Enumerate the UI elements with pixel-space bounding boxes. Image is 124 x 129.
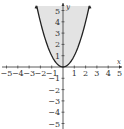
y-tick-label: 4 [55, 18, 60, 27]
y-tick-label: −3 [48, 97, 60, 106]
y-tick-label: 2 [55, 40, 60, 49]
x-tick-label: 3 [94, 69, 99, 78]
x-tick-label: −4 [12, 69, 24, 78]
chart-plot: −5−4−3−2−11234554321−1−2−3−4−5xy [0, 0, 124, 129]
y-tick-label: −4 [48, 108, 60, 117]
y-tick-label: 3 [55, 29, 60, 38]
y-tick-label: −2 [48, 86, 60, 95]
y-tick-label: 1 [55, 52, 60, 61]
y-tick-label: 5 [55, 7, 60, 16]
x-tick-label: 2 [83, 69, 88, 78]
x-tick-label: 1 [72, 69, 77, 78]
x-tick-label: −2 [35, 69, 47, 78]
x-tick-label: −5 [1, 69, 13, 78]
x-tick-label: 4 [106, 69, 111, 78]
x-tick-label: −3 [23, 69, 35, 78]
y-axis-arrow-icon [62, 3, 65, 6]
x-axis-label: x [117, 58, 121, 66]
y-tick-label: −1 [48, 74, 60, 83]
y-tick-label: −5 [48, 120, 60, 129]
x-tick-label: 5 [117, 69, 122, 78]
